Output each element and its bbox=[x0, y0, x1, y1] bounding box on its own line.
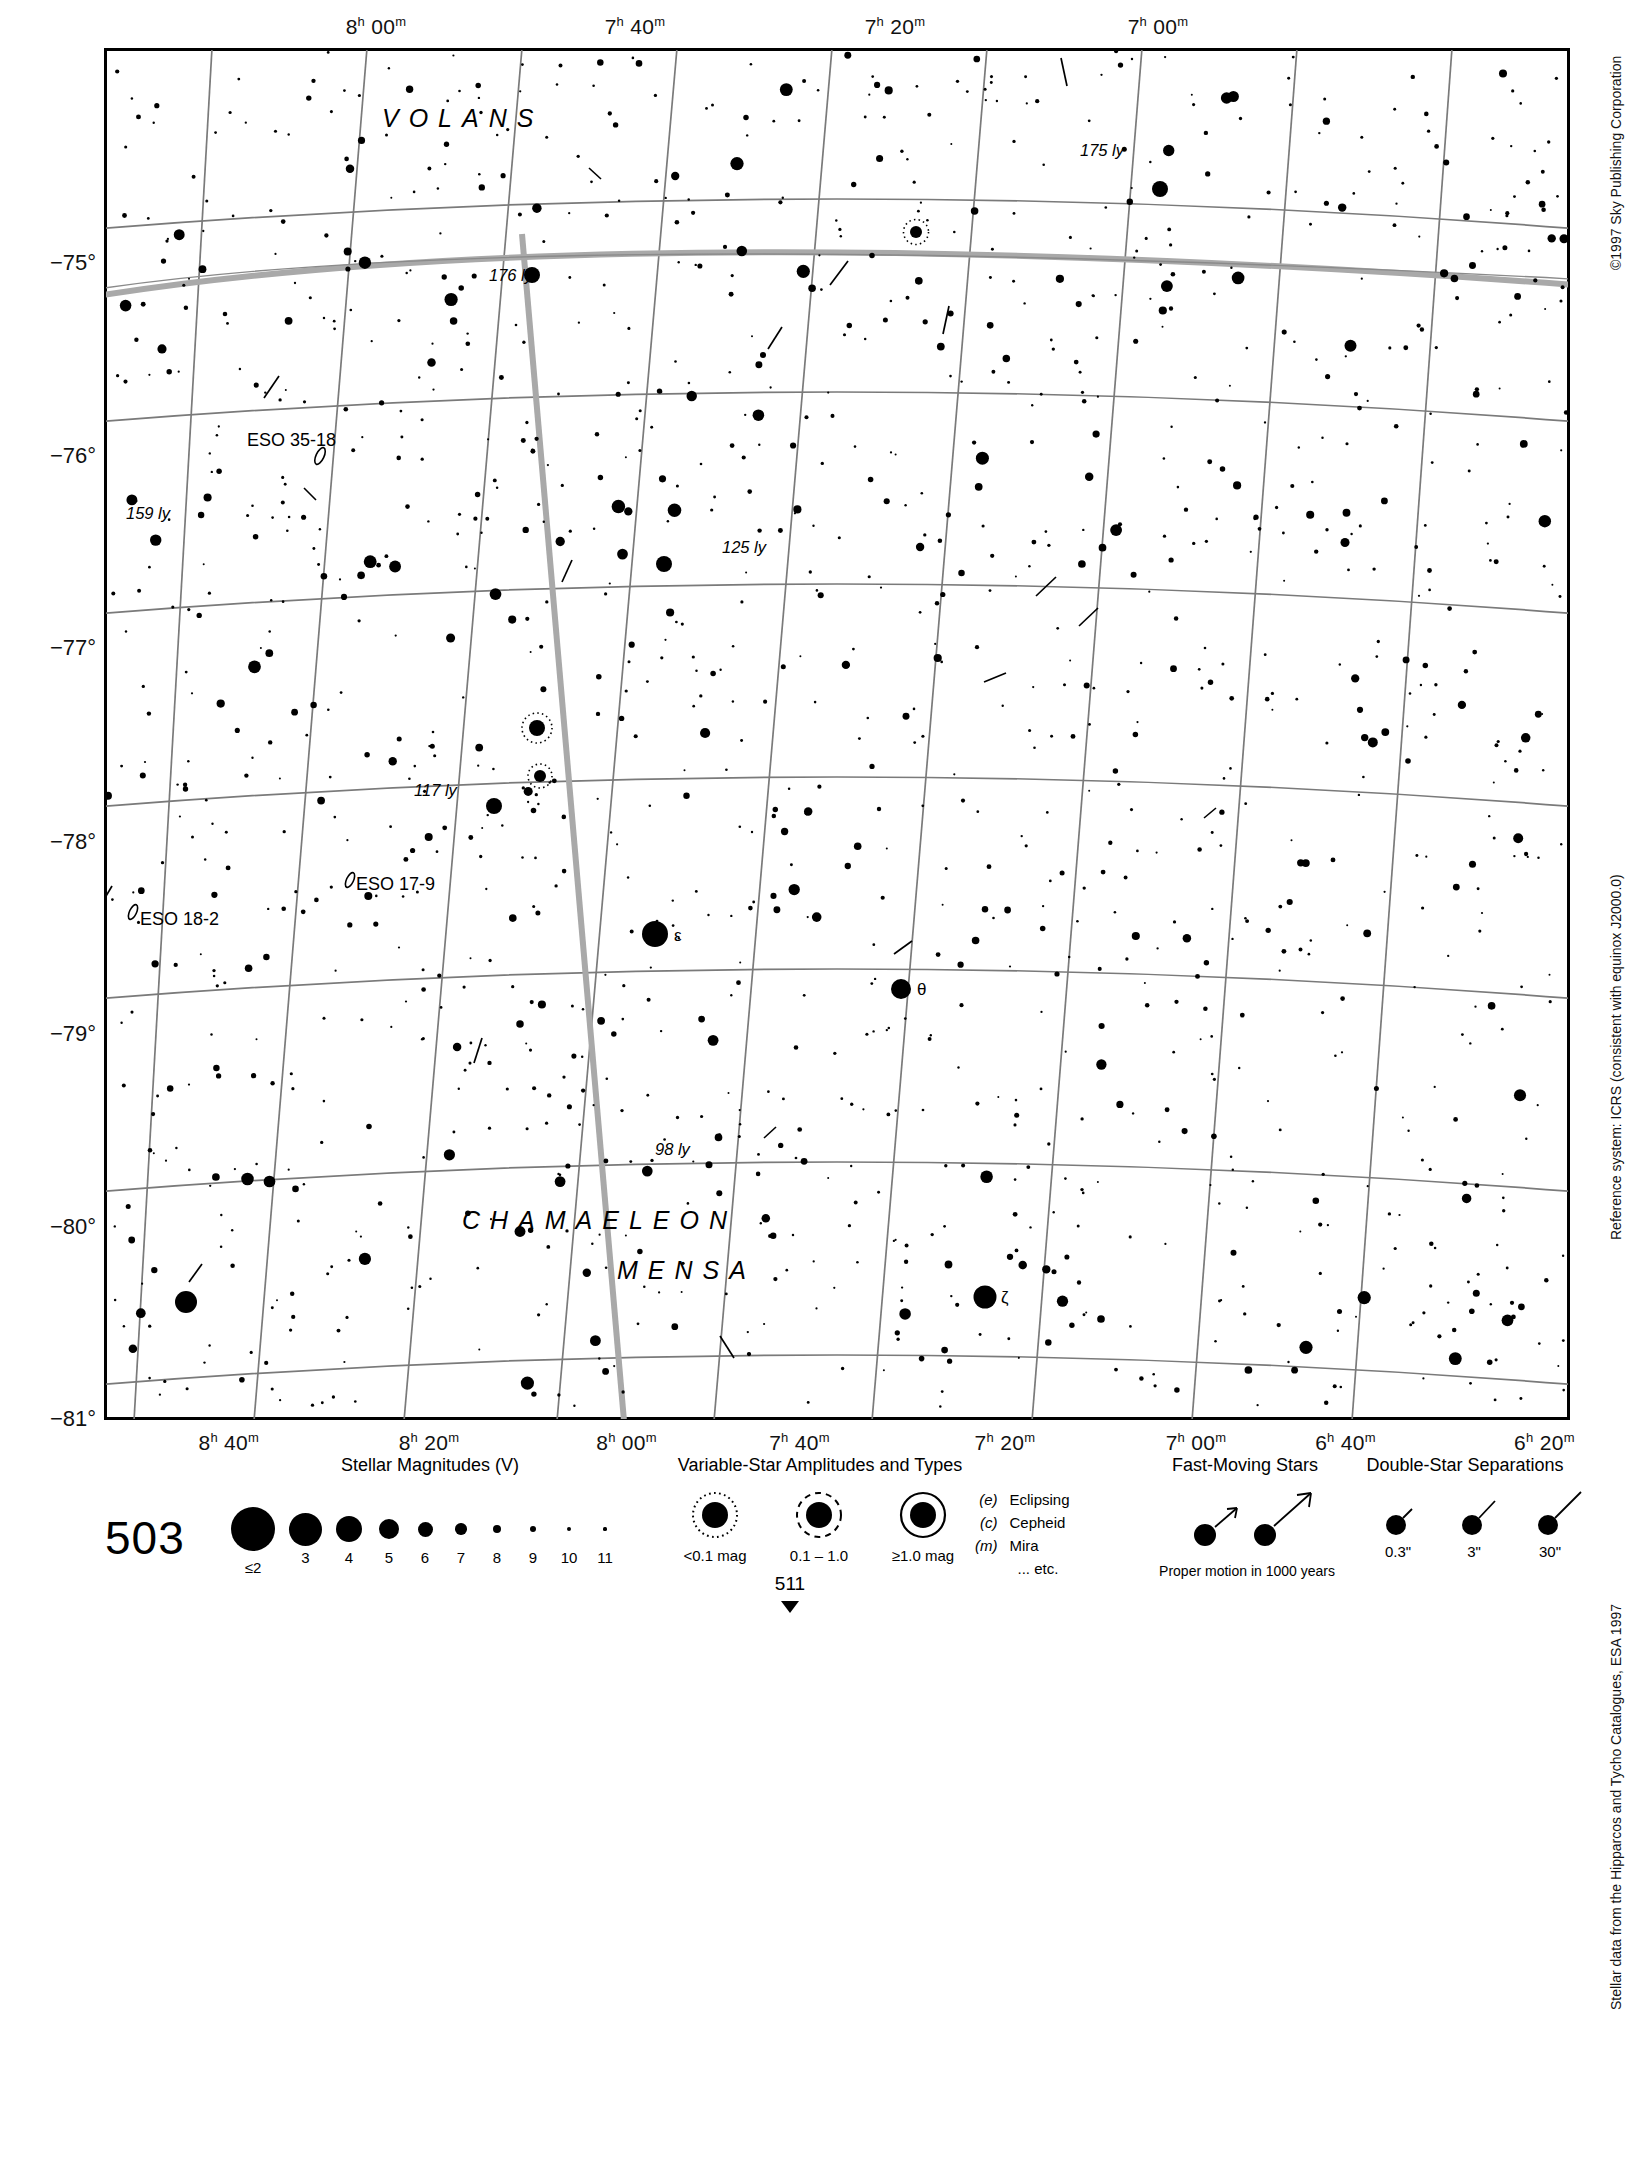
variable-type-code: (e) bbox=[975, 1489, 1002, 1510]
star-point bbox=[535, 911, 540, 916]
star-point bbox=[1192, 542, 1195, 545]
star-point bbox=[681, 1291, 683, 1293]
star-point bbox=[312, 547, 315, 550]
star-point bbox=[1440, 269, 1448, 277]
star-point bbox=[1443, 159, 1449, 165]
star-point bbox=[437, 187, 439, 189]
star-point bbox=[718, 1133, 721, 1136]
star-point bbox=[473, 517, 477, 521]
star-point bbox=[1211, 1134, 1217, 1140]
star-point bbox=[347, 1259, 350, 1262]
star-point bbox=[660, 656, 663, 659]
star-point bbox=[650, 426, 653, 429]
legend-fastmoving-title: Fast-Moving Stars bbox=[1115, 1455, 1375, 1476]
star-point bbox=[1174, 1000, 1178, 1004]
star-point bbox=[804, 811, 808, 815]
sky-map: VOLANS CHAMAELEON MENSA 175 ly 176 ly 15… bbox=[104, 48, 1570, 1421]
star-point bbox=[1028, 565, 1030, 567]
star-point bbox=[1496, 1244, 1498, 1246]
star-point bbox=[1539, 515, 1551, 527]
star-point bbox=[1211, 831, 1214, 834]
star-point bbox=[1398, 1214, 1400, 1216]
star-point bbox=[1519, 1397, 1522, 1400]
star-point bbox=[547, 464, 549, 466]
star-point bbox=[1040, 1011, 1042, 1013]
star-point bbox=[1243, 1312, 1246, 1315]
star-point bbox=[913, 181, 916, 184]
variable-type-code bbox=[975, 1558, 1002, 1579]
star-point bbox=[604, 974, 606, 976]
star-point bbox=[537, 503, 540, 506]
star-point bbox=[1060, 870, 1065, 875]
star-point bbox=[1170, 426, 1172, 428]
star-point bbox=[927, 113, 931, 117]
star-point bbox=[565, 1163, 570, 1168]
star-point bbox=[1215, 518, 1218, 521]
sky-map-svg bbox=[104, 48, 1570, 1421]
variable-type-row: (e)Eclipsing bbox=[975, 1489, 1074, 1510]
star-point bbox=[1505, 214, 1508, 217]
star-point bbox=[1337, 1330, 1339, 1332]
star-point bbox=[1306, 511, 1314, 519]
star-point bbox=[488, 1127, 491, 1130]
star-point bbox=[1429, 1168, 1432, 1171]
magnitude-label: 8 bbox=[484, 1549, 510, 1566]
star-point bbox=[239, 1377, 245, 1383]
star-point bbox=[1434, 683, 1437, 686]
star-point bbox=[1173, 920, 1176, 923]
star-point bbox=[1422, 1377, 1424, 1379]
star-point bbox=[1295, 698, 1298, 701]
star-point bbox=[1377, 640, 1380, 643]
star-point bbox=[209, 452, 211, 454]
star-point bbox=[271, 516, 274, 519]
star-point bbox=[973, 56, 980, 63]
star-point bbox=[442, 825, 447, 830]
star-point bbox=[854, 842, 862, 850]
star-point bbox=[1434, 1247, 1437, 1250]
star-point bbox=[1291, 1367, 1298, 1374]
variable-ring-icon bbox=[873, 1485, 973, 1545]
star-point bbox=[525, 1042, 527, 1044]
star-point bbox=[728, 1092, 730, 1094]
star-point bbox=[1368, 170, 1371, 173]
star-point bbox=[943, 1225, 946, 1228]
star-point bbox=[686, 391, 696, 401]
star-point bbox=[1507, 516, 1510, 519]
star-point bbox=[120, 1022, 122, 1024]
double-star-icon bbox=[1370, 1483, 1440, 1541]
star-point bbox=[274, 130, 277, 133]
star-point bbox=[971, 207, 979, 215]
star-point bbox=[1131, 187, 1133, 189]
star-point bbox=[537, 1313, 540, 1316]
star-point bbox=[440, 1006, 443, 1009]
star-point bbox=[1080, 1117, 1083, 1120]
star-point bbox=[355, 1231, 357, 1233]
star-point bbox=[203, 563, 205, 565]
star-point bbox=[643, 1285, 646, 1288]
ra-tick-top-0: 8h 00m bbox=[346, 14, 407, 39]
star-point bbox=[592, 84, 595, 87]
star-point bbox=[1095, 336, 1098, 339]
star-point bbox=[938, 539, 943, 544]
star-point bbox=[817, 89, 820, 92]
star-point bbox=[161, 258, 166, 263]
star-point bbox=[468, 1062, 471, 1065]
star-point bbox=[1502, 1196, 1505, 1199]
star-point bbox=[1352, 192, 1355, 195]
star-point bbox=[521, 63, 524, 66]
star-point bbox=[801, 1158, 808, 1165]
star-point bbox=[725, 1292, 728, 1295]
star-point bbox=[581, 1088, 585, 1092]
star-point bbox=[1012, 280, 1015, 283]
star-point bbox=[1495, 743, 1499, 747]
star-point bbox=[479, 184, 485, 190]
star-point bbox=[1283, 580, 1285, 582]
star-point bbox=[478, 1349, 480, 1351]
star-point bbox=[422, 968, 425, 971]
star-point bbox=[115, 69, 119, 73]
star-point bbox=[725, 768, 728, 771]
star-point bbox=[694, 264, 696, 266]
star-point bbox=[797, 265, 810, 278]
star-point bbox=[1023, 302, 1025, 304]
star-point bbox=[605, 1077, 608, 1080]
